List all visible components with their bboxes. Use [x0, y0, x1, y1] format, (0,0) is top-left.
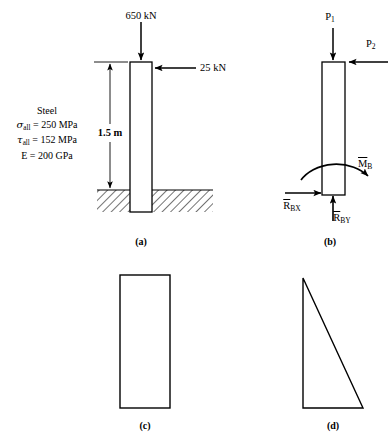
panel-caption-c: (c): [139, 421, 150, 432]
panel-b-graphics: [285, 28, 388, 221]
lateral-load-label-a: 25 kN: [200, 62, 226, 73]
rbx-symbol: R: [283, 200, 290, 211]
material-properties-block-a: Steel σall = 250 MPa τall = 152 MPa E = …: [16, 105, 77, 161]
panel-a-graphics: [94, 22, 213, 212]
moment-subscript: B: [367, 162, 372, 171]
column-b: [322, 62, 345, 195]
p2-subscript: 2: [372, 42, 376, 51]
bending-moment-diagram-d: [303, 278, 363, 408]
panel-d-graphics: [303, 278, 363, 408]
tau-subscript: all: [23, 139, 30, 147]
lateral-load-label-b: P2: [366, 38, 376, 51]
allowable-normal-stress: σall = 250 MPa: [16, 119, 77, 132]
rbx-subscript: BX: [290, 204, 300, 213]
panel-caption-a: (a): [135, 237, 147, 248]
p1-subscript: 1: [331, 15, 335, 24]
axial-load-label-b: P1: [325, 11, 335, 24]
sigma-value: = 250 MPa: [33, 119, 78, 130]
moment-symbol: M: [358, 158, 367, 169]
allowable-shear-stress: τall = 152 MPa: [16, 134, 77, 147]
sigma-symbol: σ: [16, 119, 23, 130]
modulus-symbol: E: [21, 150, 27, 161]
modulus-value: = 200 GPa: [30, 150, 73, 161]
height-dimension-label-a: 1.5 m: [98, 127, 123, 138]
elastic-modulus: E = 200 GPa: [16, 150, 77, 161]
reaction-moment-label-b: MB: [358, 158, 372, 171]
column-a: [130, 62, 152, 212]
reaction-horizontal-label-b: RBX: [283, 200, 301, 213]
rby-subscript: BY: [340, 216, 350, 225]
panel-c-graphics: [120, 275, 170, 408]
sigma-subscript: all: [23, 124, 30, 132]
axial-load-label-a: 650 kN: [125, 10, 156, 21]
tau-value: = 152 MPa: [32, 134, 77, 145]
panel-caption-b: (b): [324, 237, 336, 248]
axial-force-diagram-c: [120, 275, 170, 408]
ground-hatch-a: [97, 190, 213, 212]
rby-symbol: R: [333, 212, 340, 223]
panel-caption-d: (d): [327, 421, 339, 432]
engineering-figure: 650 kN 25 kN 1.5 m Steel σall = 250 MPa …: [0, 0, 392, 444]
reaction-vertical-label-b: RBY: [333, 212, 351, 225]
material-name: Steel: [16, 105, 77, 116]
